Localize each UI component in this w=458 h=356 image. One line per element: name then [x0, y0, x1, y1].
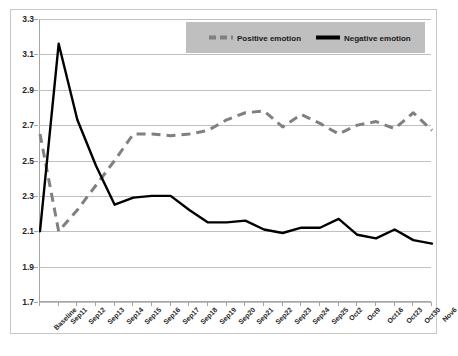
y-tick-label: 1.7	[22, 297, 34, 307]
x-tick-label: Sep20	[237, 306, 257, 326]
y-tick-label: 2.7	[22, 120, 34, 130]
series-line-negative-emotion	[40, 44, 432, 244]
series-layer	[40, 19, 432, 302]
y-tick-mark	[34, 231, 38, 232]
x-tick-label: Sep14	[125, 306, 145, 326]
legend-swatch-negative-emotion	[316, 36, 340, 40]
x-tick-label: Sep18	[199, 306, 219, 326]
x-tick-label: Oct2	[347, 306, 363, 322]
y-tick-label: 2.1	[22, 226, 34, 236]
legend-label-positive-emotion: Positive emotion	[237, 33, 301, 42]
y-tick-mark	[34, 267, 38, 268]
legend-entry-negative-emotion: Negative emotion	[316, 33, 411, 42]
y-tick-mark	[34, 125, 38, 126]
x-tick-label: Nov6	[441, 306, 458, 323]
chart-legend: Positive emotion Negative emotion	[186, 22, 425, 53]
x-tick-label: Sep13	[106, 306, 126, 326]
x-tick-label: Sep15	[143, 306, 163, 326]
x-tick-label: Sep17	[181, 306, 201, 326]
y-tick-label: 2.9	[22, 85, 34, 95]
y-tick-label: 3.1	[22, 49, 34, 59]
legend-entry-positive-emotion: Positive emotion	[209, 33, 301, 42]
x-tick-label: Oct9	[366, 306, 382, 322]
x-tick-label: Sep23	[293, 306, 313, 326]
x-tick-label: Sep19	[218, 306, 238, 326]
x-tick-label: Oct23	[404, 306, 423, 325]
x-tick-label: Sep16	[162, 306, 182, 326]
x-tick-mark	[431, 302, 432, 306]
y-axis: 3.33.12.92.72.52.32.11.91.7	[10, 19, 38, 302]
y-tick-mark	[34, 90, 38, 91]
x-tick-label: Sep21	[255, 306, 275, 326]
x-tick-label: Sep22	[274, 306, 294, 326]
y-tick-label: 3.3	[22, 14, 34, 24]
y-tick-mark	[34, 196, 38, 197]
y-tick-mark	[34, 19, 38, 20]
x-axis: BaselineSep11Sep12Sep13Sep14Sep15Sep16Se…	[39, 306, 431, 352]
y-tick-mark	[34, 161, 38, 162]
x-tick-label: Oct16	[386, 306, 405, 325]
y-tick-label: 2.3	[22, 191, 34, 201]
x-tick-label: Sep12	[87, 306, 107, 326]
x-tick-label: Sep24	[311, 306, 331, 326]
y-tick-label: 2.5	[22, 156, 34, 166]
legend-swatch-positive-emotion	[209, 36, 233, 40]
plot-area	[39, 19, 431, 302]
x-tick-label: Sep25	[330, 306, 350, 326]
y-tick-mark	[34, 54, 38, 55]
y-tick-mark	[34, 302, 38, 303]
legend-label-negative-emotion: Negative emotion	[344, 33, 411, 42]
y-tick-label: 1.9	[22, 262, 34, 272]
